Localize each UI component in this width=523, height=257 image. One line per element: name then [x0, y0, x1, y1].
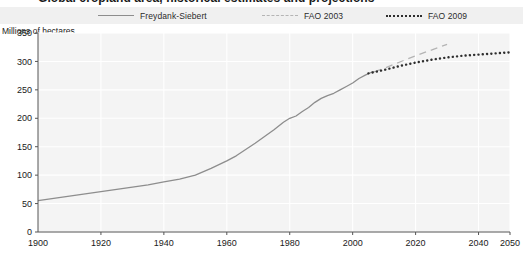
line-chart: 0501001502002503003501900192019401960198… — [0, 24, 523, 257]
x-tick-label: 1900 — [28, 238, 48, 248]
y-tick-label: 50 — [22, 199, 32, 209]
y-tick-label: 200 — [17, 113, 32, 123]
y-tick-label: 100 — [17, 170, 32, 180]
x-tick-label: 1960 — [217, 238, 237, 248]
x-tick-label: 1940 — [154, 238, 174, 248]
line-solid-icon — [98, 12, 134, 20]
x-tick-label: 2040 — [469, 238, 489, 248]
x-tick-label: 2050 — [500, 238, 520, 248]
legend-label: FAO 2003 — [304, 11, 343, 21]
y-tick-label: 350 — [17, 28, 32, 38]
line-dotted-icon — [386, 12, 422, 20]
x-tick-label: 1980 — [280, 238, 300, 248]
page-title: Global cropland area, historical estimat… — [38, 0, 375, 5]
chart-legend: Freydank-Siebert FAO 2003 FAO 2009 — [0, 7, 523, 24]
x-tick-label: 2000 — [343, 238, 363, 248]
legend-item-freydank-siebert[interactable]: Freydank-Siebert — [98, 7, 207, 24]
legend-label: FAO 2009 — [428, 11, 467, 21]
y-tick-label: 0 — [27, 227, 32, 237]
y-tick-label: 150 — [17, 142, 32, 152]
chart-plot-area: 0501001502002503003501900192019401960198… — [0, 24, 523, 257]
legend-item-fao-2003[interactable]: FAO 2003 — [262, 7, 343, 24]
legend-item-fao-2009[interactable]: FAO 2009 — [386, 7, 467, 24]
y-tick-label: 250 — [17, 85, 32, 95]
x-tick-label: 1920 — [91, 238, 111, 248]
chart-title-strip: Global cropland area, historical estimat… — [0, 0, 523, 7]
legend-label: Freydank-Siebert — [140, 11, 207, 21]
line-dashed-icon — [262, 12, 298, 20]
y-tick-label: 300 — [17, 57, 32, 67]
plot-background-group — [38, 33, 510, 232]
x-tick-label: 2020 — [406, 238, 426, 248]
